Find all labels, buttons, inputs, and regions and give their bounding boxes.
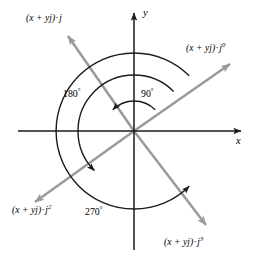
angle-label-270-degree: ° bbox=[100, 205, 103, 213]
angle-label-90-degree: ° bbox=[151, 87, 154, 95]
vector-label-j0-exponent: 0 bbox=[222, 41, 225, 48]
vector-label-j3: (x + yj)·j3 bbox=[164, 236, 203, 248]
angle-label-270: 270° bbox=[85, 206, 103, 217]
x-axis-label: x bbox=[236, 136, 241, 147]
vector-label-j2-exponent: 2 bbox=[48, 203, 51, 210]
vector-label-j1-base: (x + yj) bbox=[26, 13, 55, 23]
angle-label-180-degree: ° bbox=[78, 87, 81, 95]
angle-label-90-value: 90 bbox=[141, 88, 151, 99]
vector-label-j1-symbol: j bbox=[59, 13, 62, 23]
y-axis-label: y bbox=[143, 8, 148, 19]
vector-label-j0-base: (x + yj) bbox=[186, 43, 215, 53]
angle-label-90: 90° bbox=[141, 88, 154, 99]
arc-180 bbox=[78, 75, 174, 171]
vector-label-j3-base: (x + yj) bbox=[164, 237, 193, 247]
complex-plane-diagram: y x (x + yj)·j (x + yj)·j0 (x + yj)·j2 (… bbox=[0, 0, 267, 267]
diagram-canvas bbox=[0, 0, 267, 267]
vector-label-j3-exponent: 3 bbox=[200, 235, 203, 242]
vector-label-j2: (x + yj)·j2 bbox=[12, 204, 51, 216]
vector-ray-j3 bbox=[134, 131, 206, 225]
vector-label-j0: (x + yj)·j0 bbox=[186, 42, 225, 54]
angle-label-180: 180° bbox=[63, 88, 81, 99]
vector-ray-j1 bbox=[68, 36, 134, 131]
angle-label-180-value: 180 bbox=[63, 88, 78, 99]
vector-label-j1: (x + yj)·j bbox=[26, 12, 62, 24]
vector-label-j2-base: (x + yj) bbox=[12, 205, 41, 215]
angle-label-270-value: 270 bbox=[85, 206, 100, 217]
